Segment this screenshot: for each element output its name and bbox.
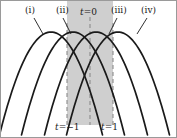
axis-label-t-minus-1: t=−1	[55, 123, 79, 132]
t-eq-0: =0	[84, 7, 97, 17]
leader-line-iv	[137, 18, 147, 34]
leader-line-i	[34, 18, 43, 34]
parabola-plot	[1, 1, 176, 137]
t-eq-m1: =−1	[59, 122, 80, 132]
curve-label-ii: (ii)	[56, 6, 69, 15]
t-eq-1: =1	[105, 122, 118, 132]
axis-label-t-1: t=1	[101, 123, 118, 132]
curve-label-i: (i)	[25, 6, 35, 15]
axis-label-t-0: t=0	[80, 8, 97, 17]
curve-label-iv: (iv)	[141, 6, 156, 15]
curve-label-iii: (iii)	[111, 6, 127, 15]
figure-container: (i) (ii) (iii) (iv) t=0 t=−1 t=1	[0, 0, 177, 138]
